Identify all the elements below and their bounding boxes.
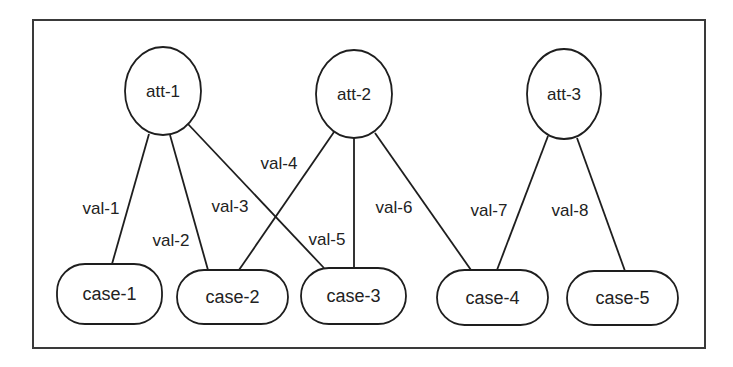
- case-node-case-4: case-4: [437, 270, 548, 325]
- case-nodes-layer: case-1case-2case-3case-4case-5: [57, 264, 678, 325]
- edge-label: val-2: [153, 231, 190, 250]
- edge-label: val-8: [552, 201, 589, 220]
- edge-label: val-5: [309, 230, 346, 249]
- attribute-node-att-1: att-1: [125, 47, 201, 135]
- case-label: case-4: [465, 288, 519, 308]
- attribute-case-diagram: val-1val-2val-3val-4val-5val-6val-7val-8…: [0, 0, 733, 367]
- attribute-label: att-1: [146, 82, 180, 101]
- edge-label: val-7: [471, 201, 508, 220]
- case-label: case-1: [82, 284, 136, 304]
- case-node-case-5: case-5: [567, 271, 678, 325]
- edge-val-2: [170, 135, 208, 270]
- edge-labels-layer: val-1val-2val-3val-4val-5val-6val-7val-8: [83, 154, 589, 250]
- edge-label: val-3: [212, 197, 249, 216]
- attribute-label: att-2: [337, 85, 371, 104]
- edge-label: val-4: [261, 154, 298, 173]
- attribute-label: att-3: [547, 85, 581, 104]
- case-node-case-2: case-2: [177, 270, 288, 324]
- attribute-node-att-3: att-3: [527, 49, 601, 139]
- case-label: case-2: [205, 287, 259, 307]
- case-label: case-3: [326, 286, 380, 306]
- edge-label: val-6: [376, 198, 413, 217]
- case-node-case-3: case-3: [301, 268, 406, 324]
- attribute-node-att-2: att-2: [316, 50, 392, 138]
- case-node-case-1: case-1: [57, 264, 162, 324]
- edge-label: val-1: [83, 199, 120, 218]
- attribute-nodes-layer: att-1att-2att-3: [125, 47, 601, 139]
- case-label: case-5: [595, 288, 649, 308]
